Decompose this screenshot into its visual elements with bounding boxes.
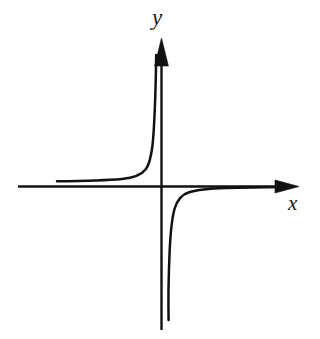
curve-left-branch [57,55,156,181]
graph-canvas [0,0,320,339]
curve-right-branch [168,187,284,320]
y-axis-label: y [152,6,162,29]
figure-root: y x [0,0,320,339]
x-axis-label: x [288,193,297,214]
